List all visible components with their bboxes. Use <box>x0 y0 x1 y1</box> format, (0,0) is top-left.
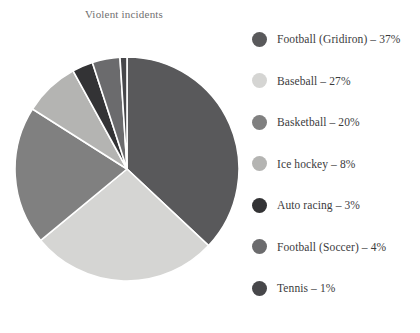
pie-chart-figure: Violent incidents Football (Gridiron) – … <box>0 0 420 333</box>
legend-item-label: Baseball – 27% <box>277 75 351 87</box>
legend-item[interactable]: Baseball – 27% <box>252 72 351 90</box>
legend-item-label: Ice hockey – 8% <box>277 158 355 170</box>
legend-item[interactable]: Tennis – 1% <box>252 279 335 297</box>
legend-item[interactable]: Ice hockey – 8% <box>252 155 355 173</box>
legend-item-label: Basketball – 20% <box>277 116 360 128</box>
legend-swatch-icon <box>252 239 267 254</box>
legend-item-label: Football (Soccer) – 4% <box>277 241 386 253</box>
pie-chart-area <box>14 56 240 282</box>
legend-swatch-icon <box>252 73 267 88</box>
legend-swatch-icon <box>252 115 267 130</box>
legend-item[interactable]: Football (Soccer) – 4% <box>252 238 386 256</box>
pie-svg <box>14 56 240 282</box>
legend-item[interactable]: Auto racing – 3% <box>252 196 360 214</box>
legend-item-label: Tennis – 1% <box>277 282 335 294</box>
legend-swatch-icon <box>252 156 267 171</box>
legend-item[interactable]: Football (Gridiron) – 37% <box>252 30 401 48</box>
legend-item-label: Auto racing – 3% <box>277 199 360 211</box>
legend-swatch-icon <box>252 198 267 213</box>
legend-swatch-icon <box>252 281 267 296</box>
chart-title: Violent incidents <box>0 8 248 20</box>
legend-swatch-icon <box>252 32 267 47</box>
legend-item-label: Football (Gridiron) – 37% <box>277 33 401 45</box>
legend-item[interactable]: Basketball – 20% <box>252 113 360 131</box>
chart-legend: Football (Gridiron) – 37%Baseball – 27%B… <box>252 30 420 320</box>
